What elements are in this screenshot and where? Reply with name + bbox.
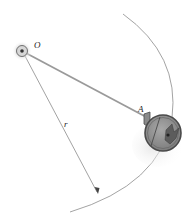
radius-line	[25, 56, 97, 192]
label-o: O	[34, 40, 41, 50]
label-r: r	[64, 119, 68, 129]
pivot-o	[12, 41, 32, 61]
pendulum-ball	[144, 112, 181, 151]
pendulum-diagram: O A r	[0, 0, 191, 220]
label-a: A	[137, 104, 144, 114]
pendulum-rod	[24, 52, 148, 118]
swing-path-arc	[70, 14, 173, 212]
radius-arrowhead	[95, 187, 100, 194]
